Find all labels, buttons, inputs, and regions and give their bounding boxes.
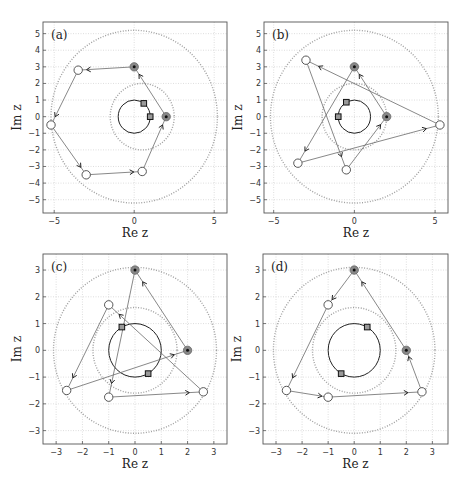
- square-marker: [147, 114, 153, 120]
- panel-label: (d): [271, 260, 288, 274]
- axes-frame: [43, 22, 227, 213]
- x-tick-label: −3: [50, 448, 62, 457]
- y-tick-label: 5: [35, 30, 40, 39]
- open-point-marker: [105, 393, 113, 401]
- x-tick-label: 0: [132, 217, 137, 226]
- x-tick-label: 1: [159, 448, 164, 457]
- square-marker: [119, 324, 125, 330]
- y-tick-label: −3: [28, 427, 40, 436]
- y-tick-label: −2: [248, 400, 260, 409]
- x-axis-label: Re z: [342, 457, 368, 471]
- y-tick-label: 4: [35, 46, 40, 55]
- square-marker: [335, 114, 341, 120]
- x-tick-label: −2: [296, 448, 308, 457]
- open-point-marker: [47, 121, 55, 129]
- y-tick-label: 5: [256, 30, 261, 39]
- y-axis-label: Im z: [10, 336, 24, 362]
- grid: [43, 22, 227, 213]
- arrowhead-icon: [77, 163, 81, 168]
- y-tick-label: 1: [256, 96, 261, 105]
- y-tick-label: 3: [255, 266, 260, 275]
- grid: [263, 254, 448, 444]
- y-tick-label: −3: [249, 162, 261, 171]
- y-axis-label: Im z: [231, 104, 245, 130]
- y-tick-label: −1: [28, 129, 40, 138]
- y-tick-label: 0: [255, 346, 260, 355]
- x-tick-label: −3: [270, 448, 282, 457]
- x-tick-label: 3: [211, 448, 216, 457]
- y-tick-label: −5: [249, 196, 261, 205]
- figure: −505−5−4−3−2−1012345(a)Re zIm z −505−5−4…: [0, 0, 467, 482]
- y-tick-label: −4: [249, 179, 261, 188]
- x-tick-label: 5: [433, 217, 438, 226]
- open-point-marker: [418, 388, 426, 396]
- square-marker: [141, 101, 147, 107]
- grid: [264, 22, 448, 213]
- y-tick-label: −3: [28, 162, 40, 171]
- panel-label: (a): [51, 28, 68, 42]
- open-point-marker: [138, 167, 146, 175]
- panel-label: (b): [272, 28, 289, 42]
- square-marker: [364, 324, 370, 330]
- y-tick-label: 1: [255, 320, 260, 329]
- x-tick-label: −2: [77, 448, 89, 457]
- x-tick-label: 1: [378, 448, 383, 457]
- x-tick-label: 0: [352, 217, 357, 226]
- open-point-marker: [324, 393, 332, 401]
- path-segment: [67, 350, 188, 390]
- y-tick-label: 3: [35, 63, 40, 72]
- y-axis-label: Im z: [230, 336, 244, 362]
- panel-label: (c): [51, 260, 67, 274]
- square-marker: [344, 99, 350, 105]
- axes-frame: [263, 254, 448, 444]
- open-point-marker: [436, 121, 444, 129]
- panel-c: −3−2−10123−3−2−10123(c)Re zIm z: [10, 254, 227, 471]
- y-tick-label: 3: [256, 63, 261, 72]
- y-tick-label: 0: [35, 113, 40, 122]
- x-tick-label: 3: [430, 448, 435, 457]
- y-axis-label: Im z: [10, 104, 24, 130]
- y-tick-label: 2: [35, 293, 40, 302]
- x-tick-label: −5: [48, 217, 60, 226]
- y-tick-label: 2: [255, 293, 260, 302]
- open-point-marker: [82, 171, 90, 179]
- y-tick-label: 0: [35, 346, 40, 355]
- panel-d: −3−2−10123−3−2−10123(d)Re zIm z: [230, 254, 448, 471]
- open-point-marker: [324, 301, 332, 309]
- x-tick-label: 2: [185, 448, 190, 457]
- y-tick-label: −5: [28, 196, 40, 205]
- y-tick-label: −3: [248, 427, 260, 436]
- path-segment: [109, 270, 135, 397]
- x-tick-label: −1: [103, 448, 115, 457]
- open-point-marker: [62, 386, 70, 394]
- x-axis-label: Re z: [122, 226, 148, 240]
- y-tick-label: 0: [256, 113, 261, 122]
- panel-b: −505−5−4−3−2−1012345(b)Re zIm z: [231, 22, 448, 240]
- y-tick-label: −1: [249, 129, 261, 138]
- x-tick-label: 0: [132, 448, 137, 457]
- open-point-marker: [294, 159, 302, 167]
- panel-a: −505−5−4−3−2−1012345(a)Re zIm z: [10, 22, 227, 240]
- y-tick-label: 2: [256, 79, 261, 88]
- square-marker: [145, 371, 151, 377]
- x-axis-label: Re z: [122, 457, 148, 471]
- x-axis-label: Re z: [343, 226, 369, 240]
- y-tick-label: 1: [35, 96, 40, 105]
- open-point-marker: [74, 66, 82, 74]
- x-tick-label: −1: [322, 448, 334, 457]
- grid: [43, 254, 227, 444]
- y-tick-label: 2: [35, 79, 40, 88]
- arrowhead-icon: [143, 282, 147, 287]
- path-segment: [298, 125, 440, 163]
- open-point-marker: [199, 388, 207, 396]
- x-tick-label: 2: [404, 448, 409, 457]
- y-tick-label: 3: [35, 266, 40, 275]
- y-tick-label: −1: [248, 373, 260, 382]
- y-tick-label: 1: [35, 320, 40, 329]
- x-tick-label: −5: [268, 217, 280, 226]
- y-tick-label: −1: [28, 373, 40, 382]
- axes-frame: [264, 22, 448, 213]
- y-tick-label: −2: [249, 146, 261, 155]
- y-tick-label: −2: [28, 400, 40, 409]
- y-tick-label: 4: [256, 46, 261, 55]
